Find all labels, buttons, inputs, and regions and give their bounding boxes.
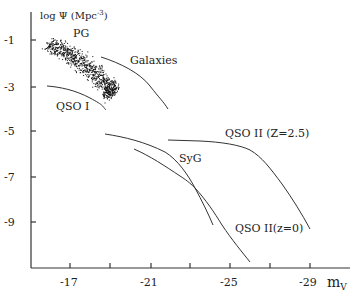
pg-label: PG bbox=[73, 27, 89, 40]
syg-label: SyG bbox=[179, 152, 202, 165]
qso2-z0-curve bbox=[134, 149, 250, 262]
x-tick-label: -25 bbox=[220, 276, 238, 289]
qso2-z25-label: QSO II (Z=2.5) bbox=[225, 127, 309, 140]
x-axis-title: mV bbox=[327, 274, 347, 292]
y-tick-label: -1 bbox=[4, 34, 15, 47]
qso1-label: QSO I bbox=[56, 100, 89, 113]
galaxies-label: Galaxies bbox=[130, 54, 178, 67]
y-axis-title: log Ψ (Mpc-3) bbox=[40, 9, 108, 21]
x-tick-label: -29 bbox=[299, 276, 317, 289]
y-tick-label: -5 bbox=[4, 125, 15, 138]
x-tick-label: -21 bbox=[140, 276, 158, 289]
y-tick-label: -7 bbox=[4, 171, 15, 184]
qso2-z0-label: QSO II(z=0) bbox=[235, 222, 303, 235]
syg-curve bbox=[105, 134, 213, 225]
y-tick-label: -9 bbox=[4, 216, 15, 229]
luminosity-function-chart: -1 -3 -5 -7 -9 -17 -21 -25 -29 log Ψ (Mp… bbox=[0, 0, 363, 298]
x-tick-label: -17 bbox=[60, 276, 78, 289]
y-tick-label: -3 bbox=[4, 81, 15, 94]
